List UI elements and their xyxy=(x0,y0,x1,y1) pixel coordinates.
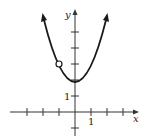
y-tick-label: 1 xyxy=(64,91,70,102)
y-axis-label: y xyxy=(64,9,71,20)
curve-arrow-right-icon xyxy=(103,13,109,22)
x-tick-label: 1 xyxy=(88,116,94,127)
curve-arrow-left-icon xyxy=(41,13,47,22)
y-axis-arrow-icon xyxy=(73,9,78,15)
open-point xyxy=(56,61,62,67)
graph: x y 1 1 xyxy=(0,0,145,140)
x-axis-label: x xyxy=(133,113,139,124)
